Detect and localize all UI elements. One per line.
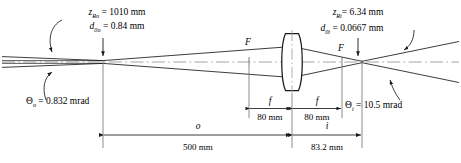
object-waist-label: d0o = 0.84 mm xyxy=(90,22,145,33)
image-distance-symbol: i xyxy=(326,122,329,132)
focal-length-left-value: 80 mm xyxy=(257,113,282,122)
leader-upper-left xyxy=(50,20,62,52)
leader-upper-right xyxy=(404,30,414,50)
focal-length-right-symbol: f xyxy=(316,97,319,107)
image-waist-label: d0i = 0.0667 mm xyxy=(321,24,384,35)
leader-lower-right xyxy=(390,80,400,100)
object-distance-symbol: o xyxy=(196,122,201,132)
focal-point-label-right: F xyxy=(338,44,344,54)
diagram-canvas xyxy=(0,0,461,163)
object-rayleigh-label: zRo = 1010 mm xyxy=(89,8,146,19)
image-rayleigh-label: zRi= 6.34 mm xyxy=(333,8,384,19)
object-divergence-label: Θo = 0.832 mrad xyxy=(26,97,89,108)
focal-length-left-symbol: f xyxy=(269,97,272,107)
optical-diagram: zRo = 1010 mm d0o = 0.84 mm zRi= 6.34 mm… xyxy=(0,0,461,163)
focal-point-label-left: F xyxy=(245,38,251,48)
image-distance-value: 83.2 mm xyxy=(311,143,343,152)
object-distance-value: 500 mm xyxy=(183,143,213,152)
image-divergence-label: Θi = 10.5 mrad xyxy=(345,101,402,112)
